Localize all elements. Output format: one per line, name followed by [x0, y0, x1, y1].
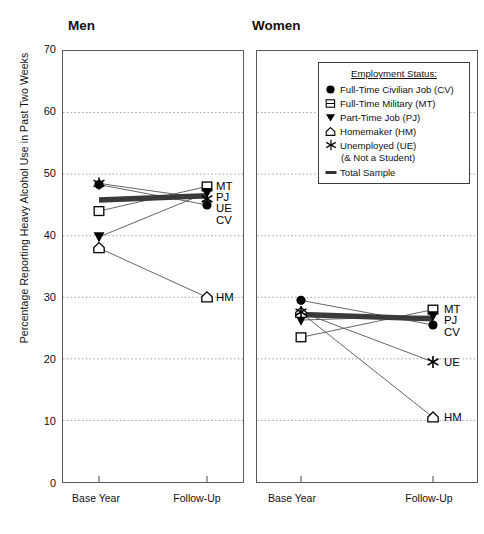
- y-tick-0: 0: [30, 477, 56, 489]
- open-pentagon-marker: [94, 243, 104, 253]
- series-end-label-CV: CV: [444, 326, 460, 338]
- filled-circle-icon: [324, 83, 337, 96]
- series-end-label-MT: MT: [444, 303, 460, 315]
- filled-triangle-down-marker: [94, 232, 105, 242]
- x-tick-men-followup: Follow-Up: [166, 492, 228, 504]
- legend-item-mt: Full-Time Military (MT): [324, 96, 464, 110]
- y-tick-70: 70: [30, 43, 56, 55]
- legend-label-mt: Full-Time Military (MT): [340, 98, 436, 109]
- x-tick-women-base: Base Year: [262, 492, 322, 504]
- plot-panel-men: MTPJUECVHM: [62, 50, 244, 483]
- series-line-HM: [301, 313, 433, 418]
- plot-area-men: MTPJUECVHM: [63, 51, 243, 482]
- open-square-marker: [94, 207, 104, 216]
- legend-label-total-sample: Total Sample: [340, 167, 395, 178]
- open-pentagon-icon: [324, 125, 337, 138]
- legend-label-cv: Full-Time Civilian Job (CV): [340, 84, 454, 95]
- star-icon: [324, 139, 337, 152]
- y-tick-40: 40: [30, 229, 56, 241]
- open-square-icon: [324, 97, 337, 110]
- panel-title-men: Men: [68, 18, 95, 33]
- legend-item-pj: Part-Time Job (PJ): [324, 110, 464, 124]
- series-end-label-HM: HM: [216, 291, 234, 303]
- series-line-total-sample: [301, 315, 433, 319]
- x-tick-men-base: Base Year: [66, 492, 126, 504]
- series-line-HM: [99, 248, 207, 297]
- figure-root: Percentage Reporting Heavy Alcohol Use i…: [0, 0, 484, 534]
- series-end-label-PJ: PJ: [444, 314, 457, 326]
- filled-triangle-down-icon: [324, 111, 337, 124]
- legend-item-ue: Unemployed (UE): [324, 138, 464, 152]
- series-end-label-UE: UE: [444, 356, 460, 368]
- legend-label-ue: Unemployed (UE): [340, 140, 416, 151]
- series-end-label-HM: HM: [444, 411, 462, 423]
- y-tick-30: 30: [30, 291, 56, 303]
- legend-item-cv: Full-Time Civilian Job (CV): [324, 82, 464, 96]
- legend-title: Employment Status:: [324, 68, 464, 79]
- filled-circle-marker: [428, 320, 437, 329]
- star-marker: [428, 356, 439, 368]
- series-end-label-CV: CV: [216, 214, 232, 226]
- series-end-label-MT: MT: [216, 180, 232, 192]
- legend-sub-note: (& Not a Student): [324, 152, 464, 165]
- series-end-label-UE: UE: [216, 202, 232, 214]
- y-tick-10: 10: [30, 415, 56, 427]
- x-tick-women-followup: Follow-Up: [398, 492, 460, 504]
- legend-item-total-sample: Total Sample: [324, 165, 464, 179]
- legend: Employment Status: Full-Time Civilian Jo…: [318, 62, 470, 184]
- open-pentagon-marker: [428, 412, 438, 422]
- filled-circle-marker: [296, 296, 305, 305]
- y-tick-60: 60: [30, 105, 56, 117]
- y-tick-20: 20: [30, 353, 56, 365]
- y-axis-title: Percentage Reporting Heavy Alcohol Use i…: [18, 28, 30, 368]
- open-square-marker: [296, 333, 306, 342]
- panel-title-women: Women: [252, 18, 301, 33]
- legend-label-pj: Part-Time Job (PJ): [340, 112, 420, 123]
- legend-item-hm: Homemaker (HM): [324, 124, 464, 138]
- series-end-label-PJ: PJ: [216, 191, 229, 203]
- open-pentagon-marker: [202, 292, 212, 302]
- thick-line-icon: [324, 166, 337, 179]
- legend-label-hm: Homemaker (HM): [340, 126, 416, 137]
- y-tick-50: 50: [30, 167, 56, 179]
